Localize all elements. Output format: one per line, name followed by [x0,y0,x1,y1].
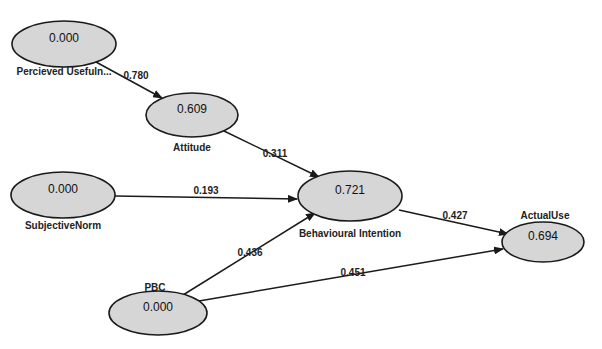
construct-label: Percieved Usefuln... [16,66,111,77]
r-squared-value: 0.000 [48,182,78,196]
construct-label: PBC [144,282,165,293]
construct-node-bi[interactable]: 0.721Behavioural Intention [298,171,402,239]
r-squared-value: 0.694 [528,229,558,243]
construct-label: Behavioural Intention [299,228,401,239]
r-squared-value: 0.609 [177,102,207,116]
edge-sn-to-bi: 0.193 [115,185,297,199]
nodes-layer: 0.000Percieved Usefuln...0.609Attitude0.… [11,21,584,335]
construct-label: Attitude [173,142,211,153]
path-diagram: 0.7800.3110.1930.4270.4360.451 0.000Perc… [0,0,602,349]
path-coefficient-label: 0.193 [193,185,218,196]
path-coefficient-label: 0.427 [442,210,467,221]
r-squared-value: 0.721 [335,183,365,197]
path-coefficient-label: 0.780 [123,70,148,81]
construct-label: ActualUse [521,210,570,221]
construct-node-att[interactable]: 0.609Attitude [146,93,238,153]
edge-pbc-to-bi: 0.436 [183,213,315,295]
edge-arrow [115,196,297,199]
path-coefficient-label: 0.436 [237,247,262,258]
diagram-canvas: 0.7800.3110.1930.4270.4360.451 0.000Perc… [0,0,602,349]
edges-layer: 0.7800.3110.1930.4270.4360.451 [96,62,508,301]
construct-node-au[interactable]: 0.694ActualUse [502,210,584,262]
edge-bi-to-au: 0.427 [399,210,508,234]
r-squared-value: 0.000 [49,31,79,45]
path-coefficient-label: 0.311 [263,148,288,159]
construct-node-pu[interactable]: 0.000Percieved Usefuln... [12,21,116,77]
construct-node-sn[interactable]: 0.000SubjectiveNorm [11,172,115,231]
path-coefficient-label: 0.451 [340,267,365,278]
r-squared-value: 0.000 [143,300,173,314]
construct-label: SubjectiveNorm [25,220,101,231]
edge-att-to-bi: 0.311 [224,131,319,177]
